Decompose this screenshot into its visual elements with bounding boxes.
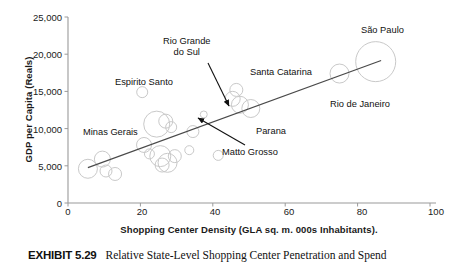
x-tick-40: 40 [195, 206, 235, 217]
x-tick-60: 60 [269, 206, 309, 217]
annotation-label: Minas Gerais [83, 127, 138, 137]
data-bubble [137, 87, 148, 98]
annotation-label-line2: do Sul [163, 47, 211, 58]
data-bubble [356, 42, 396, 82]
bubble-group [78, 42, 395, 181]
x-tick-80: 80 [342, 206, 382, 217]
data-bubble [109, 167, 122, 180]
y-axis-title: GDP per Capita (Reals) [23, 30, 34, 190]
annotation-label-line1: Rio Grande [163, 36, 211, 47]
annotation-arrow-matto-grosso [198, 118, 245, 145]
annotation-minas-gerais: Minas Gerais [83, 127, 138, 138]
x-axis-title: Shopping Center Density (GLA sq. m. 000s… [68, 224, 430, 235]
annotation-label: Santa Catarina [250, 67, 312, 77]
exhibit-caption: EXHIBIT 5.29Relative State-Level Shoppin… [28, 249, 448, 261]
x-tick-100: 100 [416, 206, 451, 217]
annotation-label: Parana [256, 126, 286, 136]
x-tick-20: 20 [122, 206, 162, 217]
annotation-sao-paulo: São Paulo [361, 25, 404, 36]
annotation-parana: Parana [256, 126, 286, 137]
annotation-espirito-santo: Espirito Santo [115, 77, 173, 88]
data-bubble [100, 165, 112, 177]
annotation-rio-grande-do-sul: Rio Grande do Sul [163, 36, 211, 58]
annotation-rio-de-janeiro: Rio de Janeiro [330, 99, 390, 110]
annotation-label: São Paulo [361, 25, 404, 35]
data-bubble [200, 111, 207, 118]
data-bubble [230, 83, 243, 96]
annotation-santa-catarina: Santa Catarina [250, 67, 312, 78]
annotation-matto-grosso: Matto Grosso [222, 147, 278, 158]
x-tick-0: 0 [48, 206, 88, 217]
exhibit-caption-text: Relative State-Level Shopping Center Pen… [106, 249, 387, 261]
annotation-label: Rio de Janeiro [330, 99, 390, 109]
exhibit-figure: 25,000 20,000 15,000 10,000 5,000 0 0 20… [0, 0, 451, 268]
annotation-label: Espirito Santo [115, 77, 173, 87]
data-bubble [166, 122, 177, 133]
data-bubble [155, 158, 169, 172]
data-bubble [144, 111, 170, 137]
exhibit-number: EXHIBIT 5.29 [28, 249, 97, 261]
annotation-label: Matto Grosso [222, 147, 278, 157]
y-tick-25000: 25,000 [16, 12, 62, 23]
annotation-arrow-rio-grande-do-sul [208, 63, 229, 106]
data-bubble [185, 146, 194, 155]
